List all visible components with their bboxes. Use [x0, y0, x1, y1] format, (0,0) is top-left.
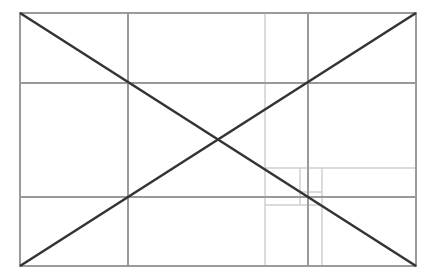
grid-svg	[0, 0, 434, 278]
composition-grid-diagram	[0, 0, 434, 278]
golden-ratio-lines	[265, 13, 416, 266]
diagonal-lines	[20, 13, 416, 266]
